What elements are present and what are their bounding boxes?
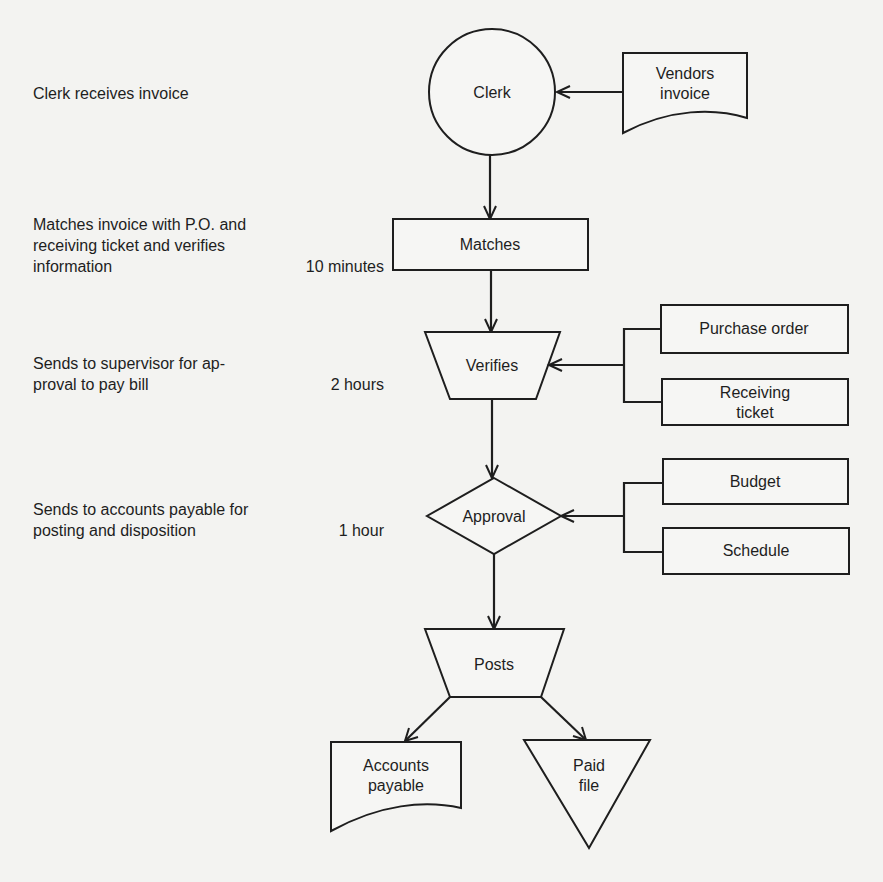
node-matches: Matches xyxy=(393,219,588,270)
node-posts: Posts xyxy=(425,629,564,697)
node-receiving-ticket: Receiving ticket xyxy=(662,379,848,425)
node-accounts-payable: Accounts payable xyxy=(331,742,461,831)
node-receiving-ticket-line2: ticket xyxy=(736,404,774,421)
node-verifies-label: Verifies xyxy=(466,357,518,374)
node-verifies: Verifies xyxy=(425,332,560,399)
edge-documents-to-verifies xyxy=(549,329,662,402)
node-schedule: Schedule xyxy=(663,528,849,574)
node-clerk: Clerk xyxy=(429,29,555,155)
edge-clerk-to-matches xyxy=(484,155,496,219)
node-accounts-payable-line1: Accounts xyxy=(363,757,429,774)
edge-criteria-to-approval xyxy=(561,483,663,552)
node-budget: Budget xyxy=(663,459,848,504)
node-paid-file-line2: file xyxy=(579,777,600,794)
flowchart: Clerk Vendors invoice Matches Verifies P… xyxy=(0,0,883,882)
node-budget-label: Budget xyxy=(730,473,781,490)
node-matches-label: Matches xyxy=(460,236,520,253)
node-vendors-invoice-line2: invoice xyxy=(660,85,710,102)
node-posts-label: Posts xyxy=(474,656,514,673)
node-approval-label: Approval xyxy=(462,508,525,525)
node-paid-file-line1: Paid xyxy=(573,757,605,774)
edge-vendors-to-clerk xyxy=(557,86,623,98)
node-vendors-invoice-line1: Vendors xyxy=(656,65,715,82)
edge-approval-to-posts xyxy=(488,554,500,629)
edge-matches-to-verifies xyxy=(485,270,497,332)
node-vendors-invoice: Vendors invoice xyxy=(623,53,747,133)
node-purchase-order: Purchase order xyxy=(661,305,848,353)
edge-posts-to-accounts-payable xyxy=(405,697,450,741)
node-clerk-label: Clerk xyxy=(473,84,511,101)
node-schedule-label: Schedule xyxy=(723,542,790,559)
edge-posts-to-paid-file xyxy=(541,697,586,740)
node-accounts-payable-line2: payable xyxy=(368,777,424,794)
edge-verifies-to-approval xyxy=(486,399,498,478)
node-receiving-ticket-line1: Receiving xyxy=(720,384,790,401)
node-paid-file: Paid file xyxy=(524,740,650,848)
node-purchase-order-label: Purchase order xyxy=(699,320,809,337)
node-approval: Approval xyxy=(427,478,561,554)
